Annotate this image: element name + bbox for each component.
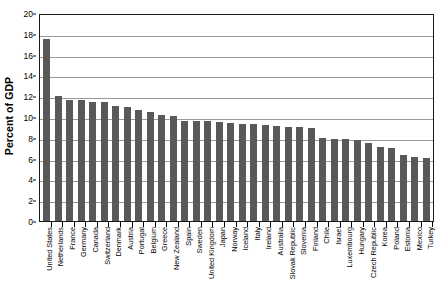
bar-slot xyxy=(202,15,214,221)
bar-slot xyxy=(352,15,364,221)
bar-slot xyxy=(271,15,283,221)
x-label-slot: United States xyxy=(40,227,52,304)
bar xyxy=(423,158,430,221)
bar xyxy=(250,124,257,221)
x-label-slot: Spain xyxy=(179,227,191,304)
bar-slot xyxy=(64,15,76,221)
x-label-slot: Greece xyxy=(156,227,168,304)
bar-slot xyxy=(363,15,375,221)
bar xyxy=(216,122,223,221)
bar xyxy=(227,123,234,221)
bar xyxy=(331,139,338,221)
y-axis-title-label: Percent of GDP xyxy=(3,77,15,155)
bar-slot xyxy=(421,15,433,221)
x-label-slot: Belgium xyxy=(144,227,156,304)
plot-area xyxy=(39,14,434,222)
y-tick-label: 10 xyxy=(24,113,33,123)
x-label-slot: Portugal xyxy=(133,227,145,304)
y-tick-mark xyxy=(33,118,36,119)
bar xyxy=(319,138,326,221)
y-tick-label: 20 xyxy=(24,9,33,19)
bar-slot xyxy=(110,15,122,221)
y-tick-label: 16 xyxy=(24,51,33,61)
bar-slot xyxy=(225,15,237,221)
x-label-slot: Slovenia xyxy=(294,227,306,304)
bar-slot xyxy=(41,15,53,221)
y-tick-mark xyxy=(33,222,36,223)
bar xyxy=(147,112,154,221)
bar-slot xyxy=(283,15,295,221)
bar-slot xyxy=(76,15,88,221)
x-label-slot: Iceland xyxy=(237,227,249,304)
bar-slot xyxy=(99,15,111,221)
x-label-slot: Mexico xyxy=(410,227,422,304)
bar xyxy=(388,148,395,221)
y-tick-mark xyxy=(33,201,36,202)
x-axis-category-labels: United StatesNetherlandsFranceGermanyCan… xyxy=(39,227,434,304)
bar xyxy=(262,125,269,221)
bar xyxy=(170,116,177,221)
bar xyxy=(377,147,384,221)
bar-slot xyxy=(179,15,191,221)
bar xyxy=(158,115,165,221)
bar xyxy=(354,140,361,221)
bars-layer xyxy=(40,15,433,221)
x-label-slot: Denmark xyxy=(109,227,121,304)
bar-slot xyxy=(317,15,329,221)
y-tick-mark xyxy=(33,180,36,181)
x-label-slot: Switzerland xyxy=(98,227,110,304)
x-label-slot: Italy xyxy=(248,227,260,304)
bar xyxy=(135,110,142,221)
y-tick-label: 14 xyxy=(24,71,33,81)
bar-slot xyxy=(156,15,168,221)
bar-slot xyxy=(53,15,65,221)
bar xyxy=(273,126,280,221)
x-label-slot: Chile xyxy=(318,227,330,304)
bar xyxy=(124,107,131,221)
bar xyxy=(66,100,73,221)
bar-slot xyxy=(248,15,260,221)
bar-slot xyxy=(386,15,398,221)
y-tick-mark xyxy=(33,55,36,56)
x-label-slot: United Kingdom xyxy=(202,227,214,304)
x-label-slot: Turkey xyxy=(422,227,434,304)
x-label-slot: Ireland xyxy=(260,227,272,304)
x-label-slot: Germany xyxy=(75,227,87,304)
bar-slot xyxy=(294,15,306,221)
bar xyxy=(296,127,303,221)
y-tick-mark xyxy=(33,138,36,139)
bar-slot xyxy=(375,15,387,221)
y-tick-mark xyxy=(33,14,36,15)
x-label-slot: Hungary xyxy=(352,227,364,304)
x-label-slot: Japan xyxy=(213,227,225,304)
bar-slot xyxy=(214,15,226,221)
bar-chart-figure: Percent of GDP 20181614121086420 United … xyxy=(0,0,446,304)
x-label-slot: Australia xyxy=(271,227,283,304)
x-label-slot: Netherlands xyxy=(52,227,64,304)
bar xyxy=(400,155,407,221)
x-label-slot: Estonia xyxy=(398,227,410,304)
x-label-slot: Sweden xyxy=(190,227,202,304)
y-tick-mark xyxy=(33,34,36,35)
x-label-slot: Israel xyxy=(329,227,341,304)
x-label-slot: Slovak Republic xyxy=(283,227,295,304)
bar xyxy=(342,139,349,221)
bar xyxy=(112,106,119,221)
bar-slot xyxy=(237,15,249,221)
y-tick-label: 18 xyxy=(24,30,33,40)
x-label-slot: Canada xyxy=(86,227,98,304)
bar-slot xyxy=(122,15,134,221)
x-label-slot: Poland xyxy=(387,227,399,304)
bar xyxy=(89,102,96,221)
bar-slot xyxy=(306,15,318,221)
bar xyxy=(43,39,50,221)
y-tick-mark xyxy=(33,76,36,77)
bar-slot xyxy=(87,15,99,221)
y-tick-label: 12 xyxy=(24,92,33,102)
bar xyxy=(204,121,211,221)
x-label-slot: France xyxy=(63,227,75,304)
y-tick-mark xyxy=(33,159,36,160)
x-label-slot: Finland xyxy=(306,227,318,304)
x-label-slot: Korea xyxy=(375,227,387,304)
bar xyxy=(181,121,188,221)
